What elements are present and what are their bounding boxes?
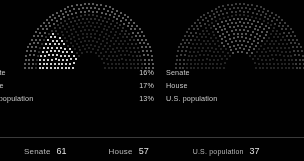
section-divider (0, 137, 304, 138)
legend-value-house: 17% (139, 82, 154, 89)
footer-value-senate: 61 (57, 146, 67, 156)
legend-label-us-population: U.S. population (166, 95, 217, 102)
legend-label-house: House (0, 82, 4, 89)
footer-item-senate: Senate 61 (24, 146, 67, 156)
footer-label-senate: Senate (24, 147, 51, 156)
legend-label-house: House (166, 82, 188, 89)
legend-row-house: House (166, 79, 304, 92)
legend-value-us-population: 13% (139, 95, 154, 102)
footer-value-house: 57 (139, 146, 149, 156)
footer-item-us-population: U.S. population 37 (193, 146, 260, 156)
legend-left: Senate 16% House 17% U.S. population 13% (0, 66, 154, 105)
visualization-root: Senate 16% House 17% U.S. population 13%… (0, 0, 304, 161)
legend-label-senate: Senate (0, 69, 6, 76)
legend-swatch-band-right (168, 60, 296, 65)
legend-row-senate: Senate 16% (0, 66, 154, 79)
footer-summary: Senate 61 House 57 U.S. population 37 (0, 141, 304, 161)
legend-swatch-band-left (24, 60, 152, 65)
legend-label-us-population: U.S. population (0, 95, 33, 102)
legend-row-senate: Senate (166, 66, 304, 79)
footer-label-us-population: U.S. population (193, 148, 244, 155)
legend-label-senate: Senate (166, 69, 190, 76)
footer-item-house: House 57 (109, 146, 149, 156)
legend-row-us-population: U.S. population (166, 92, 304, 105)
legend-row-house: House 17% (0, 79, 154, 92)
legend-right: Senate House U.S. population (166, 66, 304, 105)
legend-row-us-population: U.S. population 13% (0, 92, 154, 105)
footer-label-house: House (109, 147, 133, 156)
legend-value-senate: 16% (139, 69, 154, 76)
footer-value-us-population: 37 (250, 146, 260, 156)
